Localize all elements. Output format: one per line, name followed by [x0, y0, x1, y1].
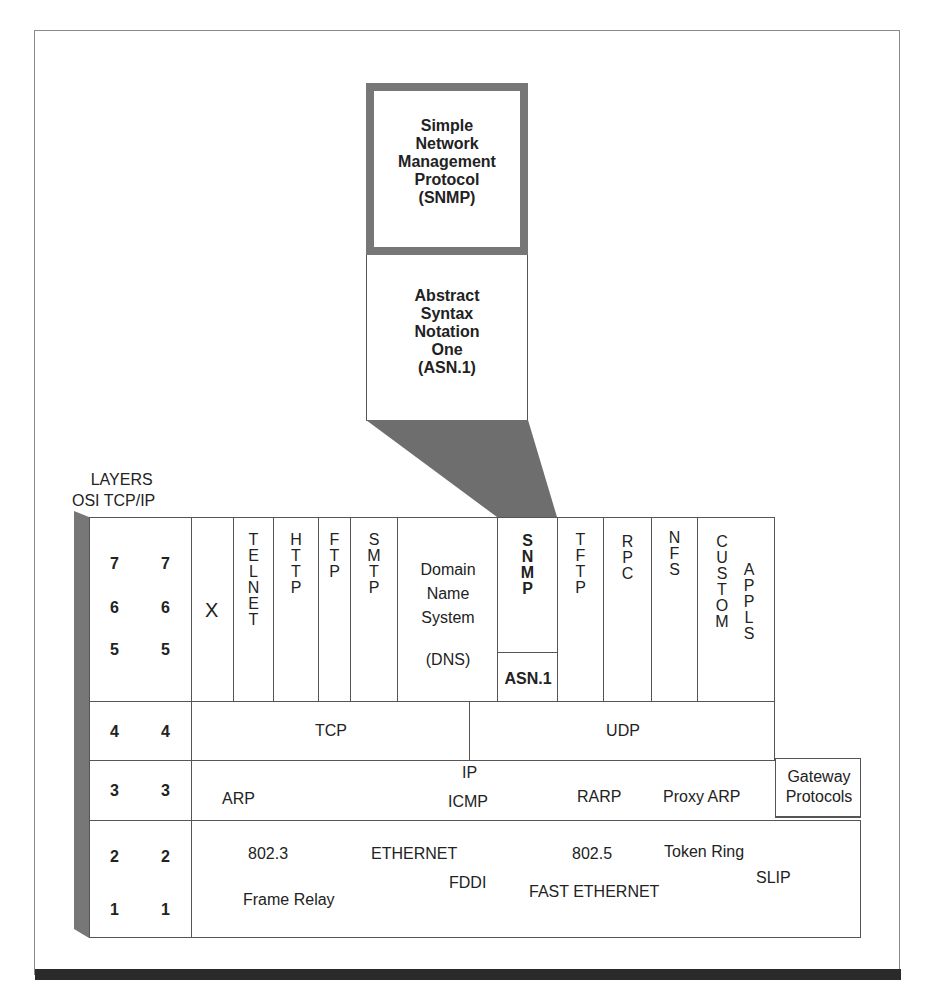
app-cell-smtp: SMTP	[350, 517, 397, 701]
gateway-line-2: Protocols	[776, 787, 862, 807]
osi-layer-5: 5	[110, 641, 119, 659]
smtp-label: SMTP	[351, 532, 397, 596]
tcpip-layer-3: 3	[161, 782, 170, 800]
snmp-box: Simple Network Management Protocol (SNMP…	[366, 83, 528, 255]
asn1-box-text: Abstract Syntax Notation One (ASN.1)	[415, 287, 480, 420]
asn1-line-3: Notation	[415, 323, 480, 341]
osi-layer-6: 6	[110, 599, 119, 617]
osi-layer-1: 1	[110, 901, 119, 919]
asn1-line-5: (ASN.1)	[415, 359, 480, 377]
app-cell-rpc: RPC	[603, 517, 651, 701]
http-label: HTTP	[274, 532, 318, 596]
appls-label: APPLS	[711, 562, 787, 642]
layers-columns: OSI TCP/IP	[72, 490, 155, 511]
osi-layer-3: 3	[110, 782, 119, 800]
rpc-label: RPC	[604, 534, 651, 582]
tcpip-layer-7: 7	[161, 555, 170, 573]
udp-label: UDP	[470, 722, 776, 740]
dns-label: Domain Name System	[398, 558, 498, 630]
app-cell-ftp: FTP	[318, 517, 350, 701]
asn1-line-4: One	[415, 341, 480, 359]
asn1-box: Abstract Syntax Notation One (ASN.1)	[366, 255, 528, 421]
osi-layer-2: 2	[110, 848, 119, 866]
ieee-802-3-label: 802.3	[248, 845, 288, 863]
layers-header: LAYERS OSI TCP/IP	[88, 469, 155, 511]
ieee-802-5-label: 802.5	[572, 845, 612, 863]
tcp-cell: TCP	[191, 701, 469, 760]
icmp-label: ICMP	[448, 793, 488, 811]
snmp-box-text: Simple Network Management Protocol (SNMP…	[398, 117, 496, 207]
gateway-label: Gateway Protocols	[776, 767, 862, 807]
layers-title: LAYERS	[88, 469, 155, 490]
layer-numbers-link	[89, 820, 191, 938]
frame-relay-label: Frame Relay	[243, 891, 335, 909]
app-cell-http: HTTP	[273, 517, 318, 701]
dns-abbrev: (DNS)	[398, 651, 498, 669]
tcp-label: TCP	[192, 722, 470, 740]
fast-ethernet-label: FAST ETHERNET	[529, 883, 659, 901]
snmp-line-1: Simple	[398, 117, 496, 135]
snmp-line-2: Network	[398, 135, 496, 153]
tftp-label: TFTP	[558, 532, 603, 596]
dns-line-3: System	[398, 606, 498, 630]
tcpip-layer-5: 5	[161, 641, 170, 659]
telnet-label: TELNET	[234, 532, 273, 628]
layer-numbers-network	[89, 760, 191, 820]
rarp-label: RARP	[577, 788, 621, 806]
tcpip-layer-2: 2	[161, 848, 170, 866]
dns-line-2: Name	[398, 582, 498, 606]
snmp-line-5: (SNMP)	[398, 189, 496, 207]
layer-numbers-transport	[89, 701, 191, 760]
gateway-line-1: Gateway	[776, 767, 862, 787]
tcpip-layer-1: 1	[161, 901, 170, 919]
tcpip-layer-4: 4	[161, 723, 170, 741]
gateway-protocols-cell: Gateway Protocols	[775, 758, 861, 818]
tcpip-layer-6: 6	[161, 599, 170, 617]
token-ring-label: Token Ring	[664, 843, 744, 861]
app-cell-snmp: SNMP	[497, 517, 557, 652]
asn1-line-1: Abstract	[415, 287, 480, 305]
snmp-line-4: Protocol	[398, 171, 496, 189]
ip-label: IP	[462, 764, 477, 782]
slip-label: SLIP	[756, 869, 791, 887]
app-cell-custom-appls: CUSTOM APPLS	[697, 517, 775, 701]
x-label: X	[205, 601, 218, 619]
udp-cell: UDP	[469, 701, 775, 760]
osi-layer-4: 4	[110, 723, 119, 741]
asn1-line-2: Syntax	[415, 305, 480, 323]
layer-numbers-upper	[89, 517, 191, 701]
ethernet-label: ETHERNET	[371, 845, 457, 863]
arp-label: ARP	[222, 790, 255, 808]
app-cell-snmp-asn1: ASN.1	[497, 652, 557, 701]
app-cell-x: X	[191, 517, 233, 701]
app-cell-tftp: TFTP	[557, 517, 603, 701]
ftp-label: FTP	[319, 532, 350, 580]
snmp-line-3: Management	[398, 153, 496, 171]
dns-line-1: Domain	[398, 558, 498, 582]
app-cell-telnet: TELNET	[233, 517, 273, 701]
app-cell-dns: Domain Name System (DNS)	[397, 517, 497, 701]
proxy-arp-label: Proxy ARP	[663, 788, 740, 806]
snmp-asn1-label: ASN.1	[498, 670, 558, 688]
osi-layer-7: 7	[110, 555, 119, 573]
snmp-label: SNMP	[498, 533, 557, 597]
figure-bottom-rule	[35, 969, 901, 980]
fddi-label: FDDI	[449, 874, 486, 892]
